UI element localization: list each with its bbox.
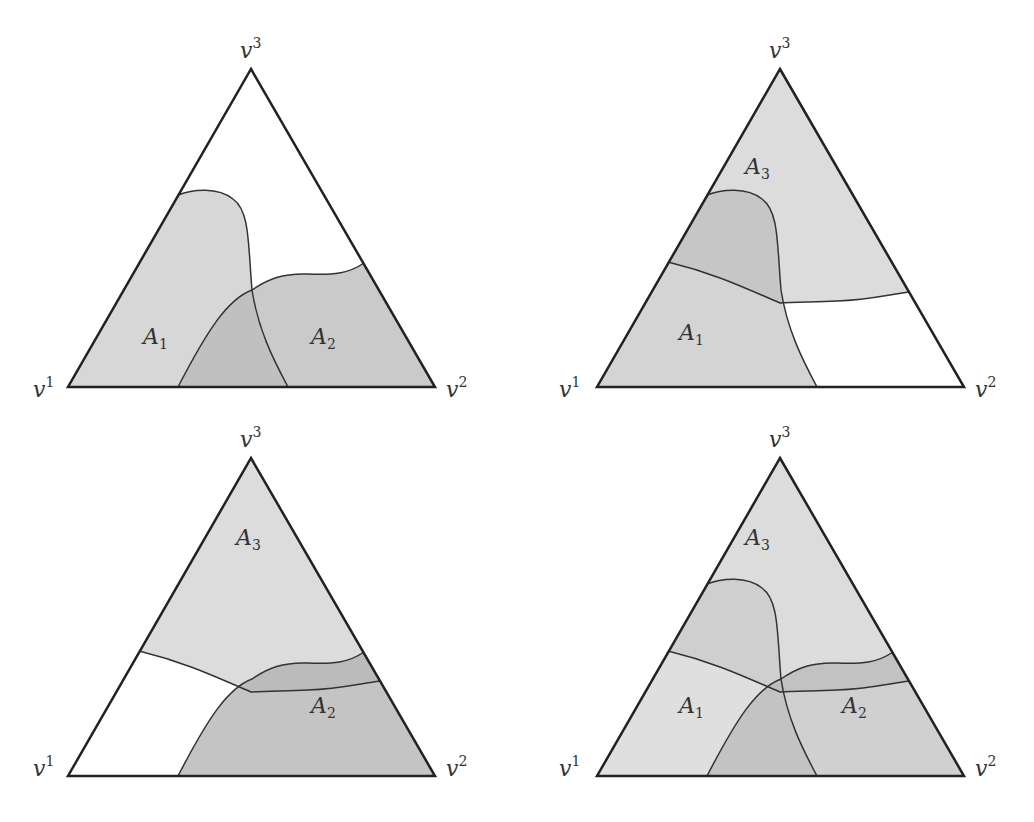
- vertex-label-v3: v3: [240, 424, 261, 452]
- simplex-figure: A1 A2 v1 v2 v3 A3 A1 v1 v2 v3 A3 A2 v1 v…: [0, 0, 1034, 822]
- vertex-label-v1: v1: [559, 753, 580, 781]
- vertex-label-v3: v3: [769, 35, 790, 63]
- vertex-label-v2: v2: [446, 374, 467, 402]
- vertex-label-v2: v2: [975, 374, 996, 402]
- vertex-label-v1: v1: [33, 753, 54, 781]
- panel-bottom-right: A3 A1 A2 v1 v2 v3: [559, 424, 996, 781]
- panel-bottom-left: A3 A2 v1 v2 v3: [33, 424, 467, 781]
- vertex-label-v3: v3: [240, 35, 261, 63]
- vertex-label-v2: v2: [446, 753, 467, 781]
- panel-top-right: A3 A1 v1 v2 v3: [559, 35, 996, 402]
- vertex-label-v2: v2: [975, 753, 996, 781]
- vertex-label-v1: v1: [33, 374, 54, 402]
- panel-top-left: A1 A2 v1 v2 v3: [33, 35, 467, 402]
- vertex-label-v3: v3: [769, 424, 790, 452]
- vertex-label-v1: v1: [559, 374, 580, 402]
